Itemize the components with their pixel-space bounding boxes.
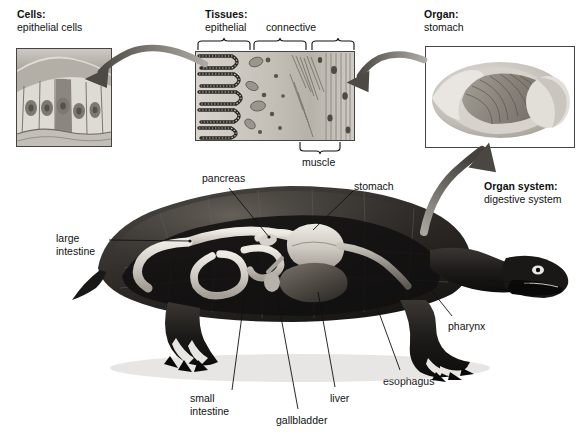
tissues-illustration: [196, 52, 354, 140]
arrow-organ-to-tissues: [347, 54, 424, 92]
turtle-illustration: [72, 186, 568, 382]
illustration-layer: [0, 0, 587, 441]
figure-canvas: Cells: epithelial cells Tissues: epithel…: [0, 0, 587, 441]
cells-illustration: [17, 49, 111, 146]
organ-illustration: [426, 47, 574, 147]
